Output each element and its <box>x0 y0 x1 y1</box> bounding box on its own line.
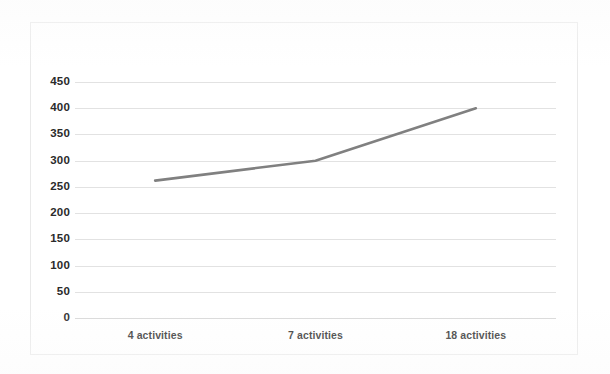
y-axis-tick-label: 250 <box>30 181 70 193</box>
gridline-150 <box>75 239 556 240</box>
x-axis-tick-labels: 4 activities7 activities18 activities <box>0 329 610 345</box>
gridline-100 <box>75 266 556 267</box>
x-axis-tick-label: 7 activities <box>288 329 343 341</box>
y-axis-tick-label: 200 <box>30 207 70 219</box>
gridline-0 <box>75 318 556 319</box>
gridline-450 <box>75 82 556 83</box>
y-axis-tick-label: 150 <box>30 233 70 245</box>
y-axis-tick-label: 400 <box>30 102 70 114</box>
gridline-400 <box>75 108 556 109</box>
y-axis-tick-label: 0 <box>30 312 70 324</box>
chart-screenshot: 050100150200250300350400450 4 activities… <box>0 0 610 374</box>
plot-area <box>75 82 556 318</box>
y-axis-tick-label: 100 <box>30 260 70 272</box>
gridline-350 <box>75 134 556 135</box>
y-axis-tick-labels: 050100150200250300350400450 <box>28 82 70 318</box>
x-axis-tick-label: 18 activities <box>445 329 506 341</box>
gridline-50 <box>75 292 556 293</box>
gridline-200 <box>75 213 556 214</box>
y-axis-tick-label: 300 <box>30 155 70 167</box>
gridline-250 <box>75 187 556 188</box>
gridline-300 <box>75 161 556 162</box>
y-axis-tick-label: 50 <box>30 286 70 298</box>
y-axis-tick-label: 350 <box>30 128 70 140</box>
y-axis-tick-label: 450 <box>30 76 70 88</box>
x-axis-tick-label: 4 activities <box>128 329 183 341</box>
